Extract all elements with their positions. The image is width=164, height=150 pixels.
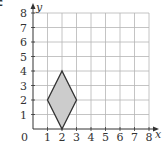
y-tick-label: 1: [20, 109, 27, 122]
y-tick-label: 7: [20, 22, 27, 35]
y-axis-label: y: [35, 1, 43, 14]
shapes-layer: [48, 71, 77, 129]
x-tick-label: 2: [59, 131, 66, 144]
rhombus-shape: [48, 71, 77, 129]
axes: [31, 3, 160, 132]
x-tick-label: 6: [117, 131, 124, 144]
origin-label: 0: [21, 131, 28, 144]
x-axis-label: x: [155, 128, 162, 141]
x-tick-label: 4: [88, 131, 95, 144]
corner-label: c: [0, 0, 3, 8]
x-tick-label: 5: [102, 131, 109, 144]
y-tick-label: 3: [20, 80, 27, 93]
y-tick-label: 2: [20, 94, 27, 107]
y-tick-label: 8: [20, 7, 27, 20]
x-tick-label: 8: [146, 131, 153, 144]
y-tick-label: 5: [20, 51, 27, 64]
y-axis-arrow-icon: [31, 3, 36, 9]
x-tick-label: 3: [73, 131, 80, 144]
grid-lines: [33, 13, 149, 129]
y-tick-label: 6: [20, 36, 27, 49]
x-tick-label: 1: [44, 131, 51, 144]
x-tick-label: 7: [131, 131, 138, 144]
y-tick-label: 4: [20, 65, 27, 78]
coordinate-grid-figure: 1234567812345678 c y x 0: [0, 0, 164, 150]
